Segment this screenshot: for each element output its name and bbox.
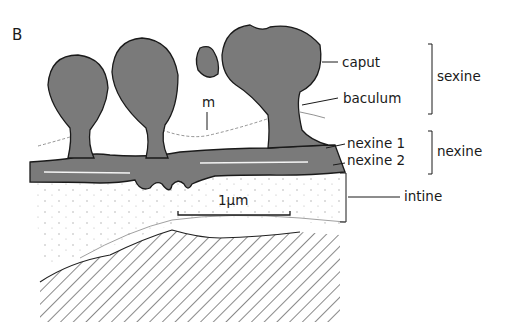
label-intine: intine [404,190,442,204]
label-baculum: baculum [343,92,401,106]
pollen-wall-diagram: B caput baculum nexine 1 nexine 2 intine… [0,0,509,322]
baculum-2 [112,38,178,158]
nexine-bracket [428,131,432,174]
baculum-3 [222,25,328,148]
panel-label: B [12,28,22,43]
sexine-bracket [428,44,432,114]
label-sexine: sexine [437,70,481,84]
label-nexine-1: nexine 1 [347,137,405,151]
label-m: m [202,96,215,110]
diagram-drawing [0,0,509,322]
label-scale: 1µm [218,194,248,208]
label-nexine: nexine [437,145,482,159]
small-caput [196,47,218,78]
baculum-1 [48,55,108,158]
label-caput: caput [342,56,380,70]
label-nexine-2: nexine 2 [347,154,405,168]
